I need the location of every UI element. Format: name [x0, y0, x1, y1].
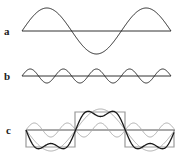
fourier-diagram	[0, 0, 180, 159]
panel-b	[22, 69, 171, 83]
panel-c	[26, 109, 175, 151]
panel-a	[22, 8, 171, 54]
